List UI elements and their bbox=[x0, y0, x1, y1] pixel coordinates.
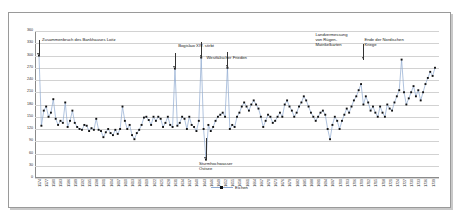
data-point bbox=[410, 91, 412, 93]
data-point bbox=[277, 116, 279, 118]
annotation-a2: Sturmhochwasser Ostsee bbox=[199, 161, 233, 172]
annotation-a1: Zusammenbruch des Bankhauses Loitz bbox=[42, 37, 116, 42]
data-point bbox=[76, 126, 78, 128]
data-point bbox=[320, 112, 322, 114]
data-point bbox=[143, 117, 145, 119]
legend-label-eichen: Eichen bbox=[235, 185, 248, 190]
data-point bbox=[110, 132, 112, 134]
data-point bbox=[141, 124, 143, 126]
data-point bbox=[303, 95, 305, 97]
data-point bbox=[45, 106, 47, 108]
data-point bbox=[79, 128, 81, 130]
data-point bbox=[193, 126, 195, 128]
data-point bbox=[322, 110, 324, 112]
data-point bbox=[100, 130, 102, 132]
data-point bbox=[188, 116, 190, 118]
data-point bbox=[398, 89, 400, 91]
data-point bbox=[238, 112, 240, 114]
data-point bbox=[289, 106, 291, 108]
data-point bbox=[334, 116, 336, 118]
data-point bbox=[153, 116, 155, 118]
data-point bbox=[329, 138, 331, 140]
data-point bbox=[215, 120, 217, 122]
data-point bbox=[291, 110, 293, 112]
callout-arrow-head bbox=[173, 66, 175, 68]
data-point bbox=[382, 112, 384, 114]
data-point bbox=[52, 98, 54, 100]
data-point bbox=[62, 122, 64, 124]
annotation-a6: Ende der Nordischen Kriege bbox=[364, 37, 403, 48]
data-point bbox=[312, 116, 314, 118]
data-point bbox=[434, 67, 436, 69]
y-axis-tick-label: 90 bbox=[29, 139, 33, 143]
y-axis-tick-label: 30 bbox=[29, 164, 33, 168]
y-axis-tick-label: 150 bbox=[27, 115, 33, 119]
data-point bbox=[124, 120, 126, 122]
series-eichen bbox=[35, 31, 439, 178]
data-point bbox=[284, 104, 286, 106]
data-point bbox=[160, 118, 162, 120]
data-point bbox=[241, 106, 243, 108]
y-axis-tick-label: 360 bbox=[27, 29, 33, 33]
y-axis-tick-label: 270 bbox=[27, 66, 33, 70]
data-point bbox=[358, 89, 360, 91]
data-point bbox=[262, 126, 264, 128]
data-point bbox=[138, 129, 140, 131]
data-point bbox=[296, 112, 298, 114]
data-point bbox=[112, 134, 114, 136]
data-point bbox=[181, 116, 183, 118]
data-point bbox=[420, 99, 422, 101]
data-point bbox=[191, 124, 193, 126]
data-point bbox=[133, 138, 135, 140]
data-point bbox=[413, 85, 415, 87]
data-point bbox=[131, 134, 133, 136]
data-point bbox=[343, 114, 345, 116]
data-point bbox=[374, 112, 376, 114]
data-point bbox=[401, 59, 403, 61]
data-point bbox=[212, 126, 214, 128]
data-point bbox=[324, 114, 326, 116]
callout-arrow-head bbox=[226, 65, 228, 67]
data-point bbox=[91, 127, 93, 129]
data-point bbox=[57, 124, 59, 126]
data-point bbox=[243, 102, 245, 104]
data-point bbox=[148, 119, 150, 121]
data-point bbox=[370, 110, 372, 112]
data-point bbox=[362, 104, 364, 106]
data-point bbox=[422, 91, 424, 93]
data-point bbox=[119, 128, 121, 130]
y-axis-tick-label: 0 bbox=[31, 176, 33, 180]
data-point bbox=[236, 116, 238, 118]
data-point bbox=[281, 116, 283, 118]
data-point bbox=[155, 120, 157, 122]
annotation-a3: Bogislaw XIV. stirbt bbox=[178, 43, 214, 48]
data-point bbox=[305, 99, 307, 101]
data-point bbox=[129, 124, 131, 126]
data-point bbox=[250, 104, 252, 106]
annotation-a5: Landvermessung von Rügen- Matrikelkarten bbox=[315, 32, 347, 48]
callout-arrow-head bbox=[200, 55, 202, 57]
data-point bbox=[391, 110, 393, 112]
data-point bbox=[317, 116, 319, 118]
data-point bbox=[157, 116, 159, 118]
data-point bbox=[260, 116, 262, 118]
data-point bbox=[136, 132, 138, 134]
data-point bbox=[403, 91, 405, 93]
data-point bbox=[298, 106, 300, 108]
data-point bbox=[394, 102, 396, 104]
data-point bbox=[351, 106, 353, 108]
data-point bbox=[167, 116, 169, 118]
data-point bbox=[224, 116, 226, 118]
data-point bbox=[429, 71, 431, 73]
data-point bbox=[64, 102, 66, 104]
data-point bbox=[222, 112, 224, 114]
data-point bbox=[279, 112, 281, 114]
data-point bbox=[408, 97, 410, 99]
data-point bbox=[81, 129, 83, 131]
data-point bbox=[198, 120, 200, 122]
data-point bbox=[74, 122, 76, 124]
data-point bbox=[367, 102, 369, 104]
data-point bbox=[69, 120, 71, 122]
data-point bbox=[50, 112, 52, 114]
data-point bbox=[55, 118, 57, 120]
